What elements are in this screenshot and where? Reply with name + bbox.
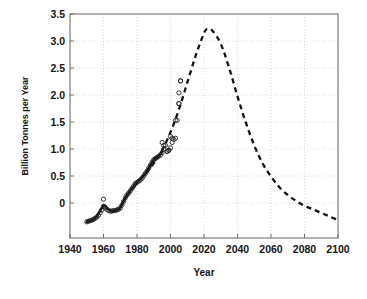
- xtick-label-1980: 1980: [125, 243, 149, 255]
- ytick-label-3.5: 3.5: [50, 8, 65, 20]
- xtick-label-1960: 1960: [92, 243, 116, 255]
- xtick-label-2040: 2040: [226, 243, 250, 255]
- ytick-label-1.0: 1.0: [50, 143, 65, 155]
- ytick-label-3.0: 3.0: [50, 35, 65, 47]
- xtick-label-2100: 2100: [326, 243, 350, 255]
- xtick-label-2020: 2020: [192, 243, 216, 255]
- xtick-label-2080: 2080: [293, 243, 317, 255]
- x-tick-labels: 1940 1960 1980 2000 2020 2040 2060 2080 …: [58, 243, 350, 255]
- y-tick-labels: 3.5 3.0 2.5 2.0 1.5 1.0 0.5 0: [50, 8, 65, 209]
- ytick-label-0: 0: [59, 197, 65, 209]
- xtick-label-2000: 2000: [159, 243, 183, 255]
- ytick-label-0.5: 0.5: [50, 170, 65, 182]
- production-forecast-chart: 3.5 3.0 2.5 2.0 1.5 1.0 0.5 0 1940 1960 …: [0, 0, 367, 299]
- ytick-label-1.5: 1.5: [50, 116, 65, 128]
- xtick-label-1940: 1940: [58, 243, 82, 255]
- ytick-label-2.5: 2.5: [50, 62, 65, 74]
- chart-figure: 3.5 3.0 2.5 2.0 1.5 1.0 0.5 0 1940 1960 …: [0, 0, 367, 299]
- y-axis-title: Billion Tonnes per Year: [20, 76, 30, 176]
- ytick-label-2.0: 2.0: [50, 89, 65, 101]
- x-axis-title: Year: [193, 267, 214, 278]
- xtick-label-2060: 2060: [259, 243, 283, 255]
